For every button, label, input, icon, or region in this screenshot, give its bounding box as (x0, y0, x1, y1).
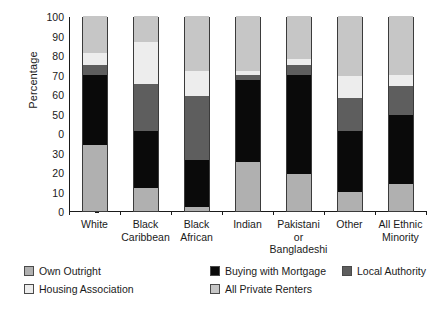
legend-swatch-icon (342, 266, 352, 276)
bar-segment[interactable] (287, 75, 311, 174)
bar-segment[interactable] (389, 115, 413, 183)
x-axis-category-labels: WhiteBlackCaribbeanBlackAfricanIndianPak… (69, 218, 426, 260)
legend-swatch-icon (24, 284, 34, 294)
bar-segment[interactable] (185, 16, 209, 71)
bar-segment[interactable] (287, 16, 311, 59)
bar-segment[interactable] (185, 71, 209, 96)
y-axis-tick-mark (95, 212, 99, 213)
bar-segment[interactable] (236, 75, 260, 81)
x-axis-category-label: All EthnicMinority (370, 218, 432, 243)
bar-segment[interactable] (236, 16, 260, 71)
x-axis-tick-mark (69, 211, 70, 215)
legend-item[interactable]: Own Outright (24, 262, 101, 280)
bar-segment[interactable] (83, 145, 107, 211)
y-axis-tick-label: 50 (30, 109, 64, 121)
bar-segment[interactable] (134, 188, 158, 211)
bar-segment[interactable] (389, 86, 413, 115)
stacked-bar[interactable] (184, 17, 210, 212)
legend-label: All Private Renters (225, 283, 312, 295)
bar-slot (375, 17, 426, 212)
bar-segment[interactable] (338, 98, 362, 131)
x-axis-tick-mark (273, 211, 274, 215)
x-axis-tick-mark (171, 211, 172, 215)
bar-segment[interactable] (83, 16, 107, 53)
legend-swatch-icon (24, 266, 34, 276)
bar-segment[interactable] (287, 59, 311, 65)
bar-slot (222, 17, 273, 212)
y-axis-tick-label: 90 (30, 31, 64, 43)
legend-label: Buying with Mortgage (225, 265, 326, 277)
bar-segment[interactable] (83, 53, 107, 65)
x-axis-tick-mark (324, 211, 325, 215)
bar-segment[interactable] (185, 160, 209, 207)
y-axis-tick-label: 60 (30, 89, 64, 101)
bar-slot (273, 17, 324, 212)
y-axis-tick-label: 80 (30, 50, 64, 62)
legend-item[interactable]: Buying with Mortgage (210, 262, 326, 280)
bar-slot (69, 17, 120, 212)
legend-row-secondary: Housing AssociationAll Private Renters (24, 280, 424, 298)
bar-slot (324, 17, 375, 212)
bar-segment[interactable] (185, 96, 209, 160)
stacked-bar[interactable] (337, 17, 363, 212)
legend-item[interactable]: Local Authority (342, 262, 426, 280)
x-axis-tick-mark (375, 211, 376, 215)
bar-segment[interactable] (134, 84, 158, 131)
bar-segment[interactable] (236, 80, 260, 162)
stacked-bar-chart: Percentage 100908070605003020100 WhiteBl… (0, 0, 442, 309)
y-axis-tick-label: 0 (30, 128, 64, 140)
stacked-bar[interactable] (235, 17, 261, 212)
y-axis-tick-label: 30 (30, 148, 64, 160)
bar-segment[interactable] (236, 162, 260, 211)
bar-segment[interactable] (338, 131, 362, 191)
stacked-bar[interactable] (388, 17, 414, 212)
x-axis-tick-mark (426, 211, 427, 215)
bar-segment[interactable] (236, 71, 260, 75)
legend-row-primary: Own OutrightBuying with MortgageLocal Au… (24, 262, 424, 280)
bar-segment[interactable] (338, 192, 362, 212)
chart-legend: Own OutrightBuying with MortgageLocal Au… (24, 262, 424, 298)
stacked-bar[interactable] (82, 17, 108, 212)
legend-label: Housing Association (39, 283, 134, 295)
y-axis-tick-labels: 100908070605003020100 (30, 11, 64, 217)
y-axis-tick-label: 0 (30, 206, 64, 218)
legend-label: Local Authority (357, 265, 426, 277)
bar-segment[interactable] (83, 65, 107, 75)
plot-area (69, 17, 426, 212)
bar-segment[interactable] (134, 16, 158, 42)
bar-segment[interactable] (338, 16, 362, 76)
legend-label: Own Outright (39, 265, 101, 277)
bar-segment[interactable] (287, 174, 311, 211)
legend-swatch-icon (210, 266, 220, 276)
y-axis-tick-label: 10 (30, 187, 64, 199)
legend-item[interactable]: Housing Association (24, 280, 134, 298)
stacked-bar[interactable] (286, 17, 312, 212)
bar-segment[interactable] (83, 75, 107, 145)
legend-item[interactable]: All Private Renters (210, 280, 312, 298)
bar-segment[interactable] (389, 75, 413, 87)
bar-segment[interactable] (134, 131, 158, 188)
stacked-bar[interactable] (133, 17, 159, 212)
bar-segment[interactable] (389, 184, 413, 211)
legend-swatch-icon (210, 284, 220, 294)
x-axis-tick-mark (120, 211, 121, 215)
bar-segment[interactable] (338, 76, 362, 97)
bar-segment[interactable] (389, 16, 413, 75)
y-axis-tick-label: 70 (30, 70, 64, 82)
x-axis-tick-mark (222, 211, 223, 215)
bar-segment[interactable] (134, 42, 158, 84)
y-axis-tick-label: 20 (30, 167, 64, 179)
y-axis-tick-label: 100 (30, 11, 64, 23)
bar-segment[interactable] (185, 207, 209, 211)
bar-slot (171, 17, 222, 212)
bar-segment[interactable] (287, 65, 311, 75)
bar-slot (120, 17, 171, 212)
